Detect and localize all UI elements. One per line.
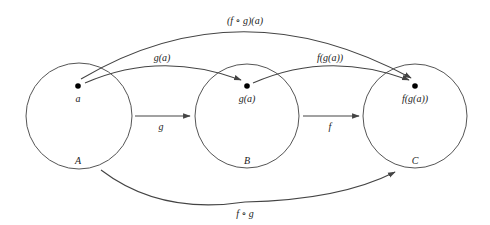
arrow-composite-point [81,32,411,79]
composition-diagram: a g(a) f(g(a)) A B C g f g(a) f(g(a)) (f… [0,0,490,225]
label-composite: f ∘ g [236,208,254,219]
set-b-circle [195,64,299,168]
label-f: f [329,121,333,132]
label-f-g-a-point: f(g(a)) [402,93,429,105]
label-g-a-point: g(a) [239,93,256,105]
label-composite-point: (f ∘ g)(a) [227,15,264,27]
set-a-circle [26,63,132,169]
arrow-a-to-g-a [85,66,241,83]
label-point-g-a: g(a) [154,52,171,64]
label-a: a [76,93,81,104]
point-a [75,83,81,89]
point-g-a [244,83,250,89]
label-set-b: B [244,155,250,166]
set-c-circle [363,64,467,168]
arrow-composite [101,170,395,205]
label-set-c: C [412,155,419,166]
arrow-g-a-to-f-g-a [253,66,409,83]
label-g: g [159,121,164,132]
point-f-g-a [412,83,418,89]
label-set-a: A [74,155,82,166]
label-point-f-g-a: f(g(a)) [317,52,344,64]
